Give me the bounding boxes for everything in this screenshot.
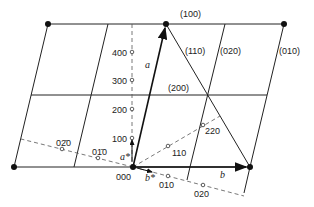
rp-110: [166, 144, 170, 148]
label-400: 400: [112, 48, 127, 58]
label-neg-010: 01̄0: [92, 147, 107, 157]
label-200-plane: (200): [168, 83, 189, 93]
vector-a: [133, 28, 165, 167]
rp-020: [201, 183, 205, 187]
label-100: 100: [112, 134, 127, 144]
plane-020-ext: [187, 167, 190, 180]
label-020: 020: [194, 189, 209, 199]
label-origin: 000: [116, 172, 131, 182]
plane-010-ext: [244, 167, 250, 193]
label-300: 300: [112, 76, 127, 86]
lattice-point: [281, 21, 287, 27]
label-010-plane: (010): [279, 46, 300, 56]
label-010: 010: [159, 180, 174, 190]
label-a-star: a*: [120, 151, 130, 162]
label-vector-b: b: [220, 169, 225, 180]
rp-010: [166, 174, 170, 178]
lattice-point: [163, 21, 169, 27]
lattice-point: [11, 164, 17, 170]
label-100-plane: (100): [180, 9, 201, 19]
diag-110-axis: [133, 116, 220, 167]
rp-200: [130, 107, 134, 111]
label-020-plane: (020): [220, 46, 241, 56]
rp-400: [130, 50, 134, 54]
rp-100: [130, 136, 134, 140]
label-neg-020: 02̄0: [56, 138, 71, 148]
lattice-point: [45, 21, 51, 27]
rp-300: [130, 78, 134, 82]
origin-point: [130, 164, 136, 170]
lattice-diagram: (100) (110) (020) (010) (200) a b a* b* …: [0, 0, 314, 207]
label-200: 200: [112, 105, 127, 115]
label-b-star: b*: [145, 172, 155, 183]
lattice-point: [247, 164, 253, 170]
label-220: 220: [205, 126, 220, 136]
label-110: 110: [172, 148, 186, 158]
label-vector-a: a: [145, 59, 150, 70]
label-110-plane: (110): [185, 46, 205, 56]
